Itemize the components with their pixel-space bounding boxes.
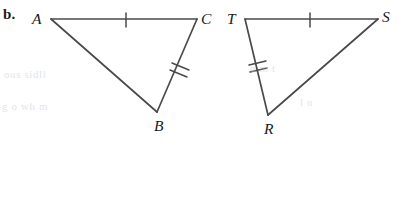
bleed-through-text: o m t [250, 62, 276, 74]
vertex-label-C: C [201, 11, 211, 27]
triangle-abc [51, 13, 197, 112]
figure-page: b. [0, 0, 403, 205]
vertex-label-A: A [32, 11, 41, 27]
vertex-label-B: B [154, 118, 163, 134]
bleed-through-text: g o wh m [2, 100, 48, 112]
side-BA [51, 19, 157, 112]
vertex-label-S: S [382, 9, 390, 25]
side-RS [268, 19, 378, 115]
vertex-label-R: R [264, 121, 273, 137]
geometry-figure [0, 0, 403, 205]
bleed-through-text: ous sidll [4, 68, 46, 80]
vertex-label-T: T [227, 11, 236, 27]
bleed-through-text: l u [300, 96, 313, 108]
